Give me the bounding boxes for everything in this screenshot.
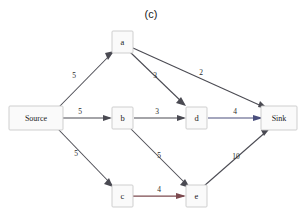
node-label: Sink: [272, 114, 287, 123]
edge-d-sink: 4: [208, 107, 263, 121]
arrowhead-icon: [103, 115, 112, 121]
node-a[interactable]: a: [112, 31, 133, 53]
figure-title: (c): [145, 8, 158, 20]
edge-line: [58, 129, 112, 185]
edge-b-e: 5: [131, 129, 190, 188]
network-canvas: (c) 5 5 5 3 2: [0, 0, 302, 221]
edge-capacity-label: 5: [157, 151, 161, 160]
edge-capacity-label: 3: [155, 107, 159, 116]
node-label: e: [195, 191, 199, 201]
arrowhead-icon: [177, 115, 186, 121]
edge-capacity-label: 2: [199, 68, 203, 77]
edge-capacity-label: 3: [153, 71, 157, 80]
edge-b-d: 3: [134, 107, 186, 121]
edge-capacity-label: 5: [72, 71, 76, 80]
edge-line: [130, 52, 184, 104]
edge-a-d: 3: [130, 52, 186, 106]
node-sink[interactable]: Sink: [261, 106, 297, 130]
node-source[interactable]: Source: [9, 106, 63, 130]
edge-capacity-label: 5: [74, 149, 78, 158]
node-b[interactable]: b: [112, 107, 133, 129]
edge-e-sink: 10: [204, 128, 270, 186]
edge-capacity-label: 10: [232, 152, 240, 161]
arrowhead-icon: [176, 193, 186, 199]
edge-source-c: 5: [58, 129, 113, 187]
edge-source-b: 5: [63, 107, 112, 121]
node-label: b: [120, 113, 124, 123]
edge-capacity-label: 5: [78, 107, 82, 116]
flow-network-diagram: (c) 5 5 5 3 2: [0, 0, 302, 221]
edge-line: [58, 52, 113, 108]
node-d[interactable]: d: [186, 107, 207, 129]
edge-capacity-label: 4: [233, 107, 237, 116]
edge-source-a: 5: [58, 51, 114, 108]
node-c[interactable]: c: [112, 185, 133, 207]
node-label: Source: [25, 114, 48, 123]
edge-c-e: 4: [133, 185, 186, 199]
node-label: c: [121, 191, 125, 201]
node-label: a: [121, 37, 125, 47]
node-e[interactable]: e: [186, 185, 207, 207]
edge-capacity-label: 4: [157, 185, 161, 194]
